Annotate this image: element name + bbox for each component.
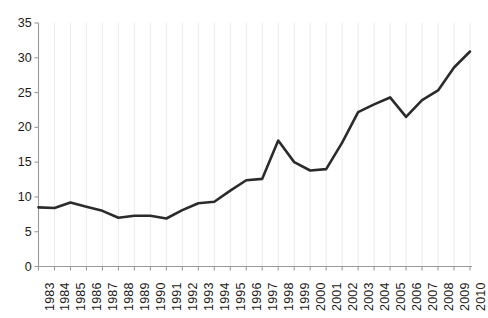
x-tick-label: 1997 — [267, 282, 280, 311]
x-tick-label: 1996 — [251, 282, 264, 311]
x-tick-label: 1984 — [59, 282, 72, 311]
x-tick-label: 1992 — [187, 282, 200, 311]
x-tick-label: 1989 — [139, 282, 152, 311]
x-tick-label: 1990 — [155, 282, 168, 311]
x-tick-label: 1988 — [123, 282, 136, 311]
x-tick-label: 1986 — [91, 282, 104, 311]
x-tick-label: 2010 — [475, 282, 488, 311]
x-tick-label: 1991 — [171, 282, 184, 311]
x-tick-label: 2006 — [411, 282, 424, 311]
x-tick-label: 1985 — [75, 282, 88, 311]
x-tick-label: 1999 — [299, 282, 312, 311]
x-tick-label: 2002 — [347, 282, 360, 311]
x-tick-label: 1983 — [44, 282, 57, 311]
x-tick-label: 2008 — [443, 282, 456, 311]
figure-caption — [8, 309, 308, 318]
x-tick-label: 2004 — [379, 282, 392, 311]
x-axis-labels: 1983198419851986198719881989199019911992… — [0, 0, 488, 318]
x-tick-label: 2005 — [395, 282, 408, 311]
chart-container: 05101520253035 1983198419851986198719881… — [0, 0, 488, 318]
x-tick-label: 1994 — [219, 282, 232, 311]
x-tick-label: 1995 — [235, 282, 248, 311]
x-tick-label: 1993 — [203, 282, 216, 311]
x-tick-label: 2009 — [459, 282, 472, 311]
x-tick-label: 2000 — [315, 282, 328, 311]
x-tick-label: 2007 — [427, 282, 440, 311]
x-tick-label: 1987 — [107, 282, 120, 311]
x-tick-label: 2001 — [331, 282, 344, 311]
x-tick-label: 1998 — [283, 282, 296, 311]
x-tick-label: 2003 — [363, 282, 376, 311]
